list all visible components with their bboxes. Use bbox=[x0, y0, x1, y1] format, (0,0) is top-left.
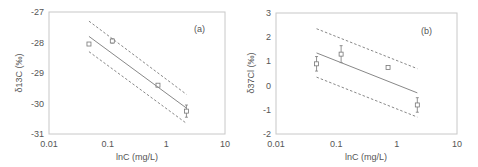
chart-b-x-tick-labels: 0.010.1110 bbox=[267, 139, 462, 149]
chart-a-delta13c: -27-28-29-30-31 0.010.1110 (a) lnC (mg/L… bbox=[14, 7, 230, 162]
x-tick-label: 1 bbox=[394, 139, 399, 149]
x-tick-label: 1 bbox=[164, 139, 169, 149]
regression-line bbox=[317, 53, 418, 93]
x-tick-label: 10 bbox=[220, 139, 230, 149]
square-marker-icon bbox=[315, 62, 319, 66]
chart-a-y-axis-label: δ13C (‰) bbox=[14, 53, 24, 92]
chart-a-panel-label: (a) bbox=[194, 24, 205, 34]
chart-a-x-axis-label: lnC (mg/L) bbox=[116, 152, 158, 162]
data-point bbox=[339, 46, 343, 63]
square-marker-icon bbox=[110, 39, 114, 43]
chart-a-x-tick-labels: 0.010.1110 bbox=[40, 139, 230, 149]
upper-bound-line bbox=[317, 29, 418, 69]
y-tick-label: -31 bbox=[31, 129, 44, 139]
y-tick-label: -1 bbox=[263, 105, 271, 115]
y-tick-label: 0 bbox=[266, 81, 271, 91]
x-tick-label: 0.1 bbox=[101, 139, 114, 149]
square-marker-icon bbox=[87, 42, 91, 46]
data-point bbox=[386, 65, 390, 69]
chart-b-x-axis-label: lnC (mg/L) bbox=[345, 152, 387, 162]
y-tick-label: -29 bbox=[31, 68, 44, 78]
upper-bound-line bbox=[89, 21, 186, 94]
lower-bound-line bbox=[89, 52, 186, 124]
data-point bbox=[87, 42, 91, 46]
y-tick-label: -28 bbox=[31, 38, 44, 48]
regression-line bbox=[89, 36, 186, 108]
y-tick-label: 1 bbox=[266, 56, 271, 66]
chart-a-y-tick-labels: -27-28-29-30-31 bbox=[31, 7, 44, 139]
y-tick-label: -27 bbox=[31, 7, 44, 17]
square-marker-icon bbox=[415, 103, 419, 107]
y-tick-label: 3 bbox=[266, 8, 271, 18]
chart-b-y-axis-label: δ37Cl (‰) bbox=[246, 52, 256, 93]
y-tick-label: 2 bbox=[266, 32, 271, 42]
square-marker-icon bbox=[386, 65, 390, 69]
x-tick-label: 0.1 bbox=[330, 139, 343, 149]
square-marker-icon bbox=[184, 109, 188, 113]
chart-b-panel-label: (b) bbox=[421, 26, 432, 36]
lower-bound-line bbox=[317, 77, 418, 117]
data-point bbox=[315, 57, 319, 72]
y-tick-label: -2 bbox=[263, 129, 271, 139]
x-tick-label: 10 bbox=[452, 139, 462, 149]
chart-b-y-tick-labels: 3210-1-2 bbox=[263, 8, 271, 139]
chart-b-delta37cl: 3210-1-2 0.010.1110 (b) lnC (mg/L) δ37Cl… bbox=[246, 8, 462, 162]
chart-b-series bbox=[315, 29, 420, 117]
square-marker-icon bbox=[339, 52, 343, 56]
x-tick-label: 0.01 bbox=[267, 139, 285, 149]
x-tick-label: 0.01 bbox=[40, 139, 58, 149]
chart-a-series bbox=[87, 21, 188, 123]
figure: -27-28-29-30-31 0.010.1110 (a) lnC (mg/L… bbox=[0, 0, 478, 167]
data-point bbox=[415, 98, 419, 113]
y-tick-label: -30 bbox=[31, 99, 44, 109]
data-point bbox=[110, 39, 114, 43]
